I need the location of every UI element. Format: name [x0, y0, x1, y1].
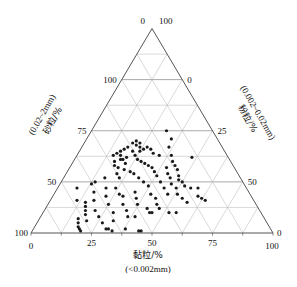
- data-point: [173, 164, 176, 167]
- left-tick-label: 50: [47, 177, 57, 187]
- data-point: [196, 186, 199, 189]
- data-point: [112, 154, 115, 157]
- data-point: [101, 221, 104, 224]
- bottom-tick-label: 50: [148, 238, 158, 248]
- data-point: [133, 154, 136, 157]
- data-point: [177, 174, 180, 177]
- data-point: [170, 137, 173, 140]
- data-point: [119, 150, 122, 153]
- data-point: [131, 150, 134, 153]
- data-point: [190, 156, 193, 159]
- data-point: [113, 164, 116, 167]
- data-point: [77, 217, 80, 220]
- data-point: [149, 148, 152, 151]
- data-point: [165, 166, 168, 169]
- bottom-axis-label-cjk: 黏粒/%: [133, 249, 163, 260]
- data-point: [135, 143, 138, 146]
- bottom-left-label-lower: 0: [29, 241, 34, 251]
- right-tick-label: 25: [218, 126, 228, 136]
- data-point: [132, 172, 135, 175]
- data-point: [152, 152, 155, 155]
- data-point: [155, 203, 158, 206]
- data-point: [77, 221, 80, 224]
- data-point: [129, 170, 132, 173]
- data-point: [204, 199, 207, 202]
- data-point: [149, 193, 152, 196]
- data-point: [170, 182, 173, 185]
- bottom-right-label-upper: 0: [277, 228, 282, 238]
- data-point: [163, 186, 166, 189]
- data-point: [84, 205, 87, 208]
- data-point: [84, 213, 87, 216]
- data-point: [159, 180, 162, 183]
- data-point: [90, 182, 93, 185]
- data-point: [146, 146, 149, 149]
- data-point: [146, 207, 149, 210]
- data-point: [125, 156, 128, 159]
- data-point: [154, 197, 157, 200]
- data-point: [175, 186, 178, 189]
- data-point: [138, 141, 141, 144]
- data-point: [75, 186, 78, 189]
- data-point: [75, 199, 78, 202]
- data-point: [84, 201, 87, 204]
- data-point: [140, 160, 143, 163]
- data-point: [92, 191, 95, 194]
- apex-label-left: 0: [141, 16, 146, 26]
- data-point: [121, 195, 124, 198]
- data-point: [133, 191, 136, 194]
- data-point: [123, 168, 126, 171]
- data-point: [200, 197, 203, 200]
- data-point: [135, 197, 138, 200]
- data-point: [117, 166, 120, 169]
- data-point: [94, 180, 97, 183]
- data-point: [166, 193, 169, 196]
- data-point: [115, 152, 118, 155]
- data-point: [171, 160, 174, 163]
- data-point: [166, 172, 169, 175]
- data-point: [138, 146, 141, 149]
- data-point: [136, 203, 139, 206]
- data-point: [165, 129, 168, 132]
- data-point: [169, 176, 172, 179]
- data-point: [94, 209, 97, 212]
- data-point: [121, 203, 124, 206]
- data-point: [107, 203, 110, 206]
- data-point: [142, 148, 145, 151]
- data-point: [107, 227, 110, 230]
- data-point: [189, 186, 192, 189]
- data-point: [158, 207, 161, 210]
- data-point: [183, 184, 186, 187]
- data-point: [137, 176, 140, 179]
- data-point: [118, 176, 121, 179]
- data-point: [153, 170, 156, 173]
- data-point: [175, 211, 178, 214]
- data-point: [138, 150, 141, 153]
- data-point: [185, 201, 188, 204]
- data-point: [79, 229, 82, 232]
- data-point: [131, 141, 134, 144]
- data-point: [114, 186, 117, 189]
- data-point: [92, 199, 95, 202]
- data-point: [142, 180, 145, 183]
- data-point: [196, 195, 199, 198]
- ternary-plot-svg: 255050507525751000 黏粒/% (<0.002mm) (0.02…: [0, 0, 297, 287]
- data-point: [155, 174, 158, 177]
- data-point: [110, 229, 113, 232]
- data-point: [112, 211, 115, 214]
- left-tick-label: 75: [78, 126, 88, 136]
- data-point: [147, 164, 150, 167]
- data-point: [84, 209, 87, 212]
- apex-label-right: 100: [159, 16, 173, 26]
- data-point: [126, 146, 129, 149]
- data-point: [124, 162, 127, 165]
- bottom-axis-label-range: (<0.002mm): [125, 264, 170, 274]
- bottom-tick-label: 25: [87, 238, 97, 248]
- right-tick-label: 0: [187, 75, 192, 85]
- left-tick-label: 100: [103, 75, 117, 85]
- data-point: [115, 172, 118, 175]
- data-point: [147, 184, 150, 187]
- data-point: [125, 209, 128, 212]
- data-point: [167, 146, 170, 149]
- data-point: [113, 160, 116, 163]
